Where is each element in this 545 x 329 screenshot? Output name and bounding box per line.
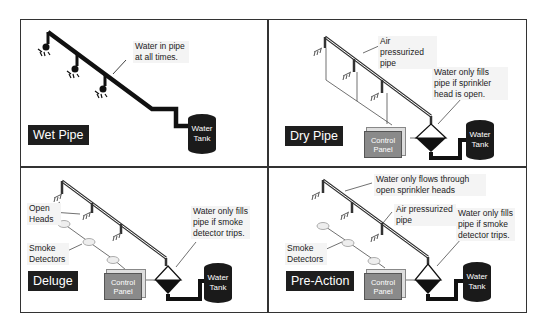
- dry-sprinkler-heads: [314, 48, 379, 101]
- wet-pipe-title: Wet Pipe: [28, 125, 89, 145]
- dry-valve-icon: [416, 124, 446, 152]
- deluge-water-tank: Water Tank: [204, 263, 232, 303]
- dry-annotation-water: Water only fills pipe if sprinkler head …: [432, 67, 508, 100]
- preaction-annotation-air: Air pressurized pipe: [394, 204, 456, 226]
- preaction-title: Pre-Action: [286, 271, 354, 291]
- deluge-title: Deluge: [28, 271, 78, 291]
- deluge-valve-icon: [155, 266, 181, 294]
- deluge-annotation-water: Water only fills pipe if smoke detector …: [191, 206, 250, 239]
- preaction-valve-icon: [415, 264, 441, 294]
- preaction-water-tank: Water Tank: [463, 262, 491, 302]
- wet-water-tank: Water Tank: [188, 114, 216, 154]
- deluge-annotation-detectors: Smoke Detectors: [27, 243, 69, 265]
- dry-control-panel: Control Panel: [364, 131, 402, 158]
- preaction-annotation-detectors: Smoke Detectors: [285, 243, 327, 265]
- preaction-annotation-water: Water only fills pipe if smoke detector …: [456, 208, 515, 241]
- preaction-control-panel: Control Panel: [364, 273, 402, 300]
- dry-pipe-title: Dry Pipe: [285, 126, 343, 146]
- dry-annotation-air: Air pressurized pipe: [378, 36, 437, 69]
- preaction-sprinkler-heads: [312, 192, 379, 242]
- dry-water-tank: Water Tank: [466, 120, 494, 160]
- wet-annotation: Water in pipe at all times.: [133, 41, 189, 63]
- deluge-control-panel: Control Panel: [104, 273, 142, 300]
- preaction-annotation-flow: Water only flows through open sprinkler …: [374, 174, 486, 196]
- deluge-annotation-heads: Open Heads: [27, 203, 61, 225]
